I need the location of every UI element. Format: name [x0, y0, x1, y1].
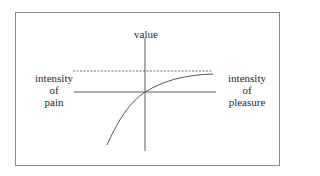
left-label-line-1: intensity [28, 72, 80, 84]
right-axis-label: intensity of pleasure [222, 72, 272, 108]
left-axis-label: intensity of pain [28, 72, 80, 108]
y-axis-label: value [133, 28, 159, 40]
left-label-line-3: pain [28, 96, 80, 108]
right-label-line-2: of [222, 84, 272, 96]
right-label-line-3: pleasure [222, 96, 272, 108]
left-label-line-2: of [28, 84, 80, 96]
right-label-line-1: intensity [222, 72, 272, 84]
value-curve [107, 74, 213, 145]
